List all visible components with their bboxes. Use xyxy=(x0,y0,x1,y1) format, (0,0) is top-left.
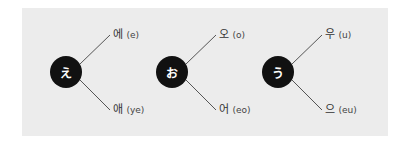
upper-branch-label: 에 (e) xyxy=(113,29,139,41)
hangul-text: 우 xyxy=(325,28,335,41)
kana-label: え xyxy=(60,64,72,81)
hangul-text: 에 xyxy=(113,28,123,41)
hangul-text: 으 xyxy=(325,103,335,116)
romanization-text: (u) xyxy=(339,30,352,40)
hangul-text: 어 xyxy=(219,103,229,116)
kana-node-o: お xyxy=(156,56,188,88)
lower-branch-label: 어 (eo) xyxy=(219,104,251,116)
lower-branch-label: 애 (ye) xyxy=(113,104,144,116)
romanization-text: (e) xyxy=(127,30,140,40)
kana-label: お xyxy=(166,64,178,81)
upper-branch-label: 오 (o) xyxy=(219,29,245,41)
hangul-text: 오 xyxy=(219,28,229,41)
romanization-text: (ye) xyxy=(127,105,145,115)
kana-node-u: う xyxy=(262,56,294,88)
lower-branch-label: 으 (eu) xyxy=(325,104,357,116)
upper-branch-label: 우 (u) xyxy=(325,29,351,41)
romanization-text: (eo) xyxy=(233,105,251,115)
kana-node-e: え xyxy=(50,56,82,88)
kana-label: う xyxy=(272,64,284,81)
romanization-text: (o) xyxy=(233,30,246,40)
romanization-text: (eu) xyxy=(339,105,357,115)
hangul-text: 애 xyxy=(113,103,123,116)
